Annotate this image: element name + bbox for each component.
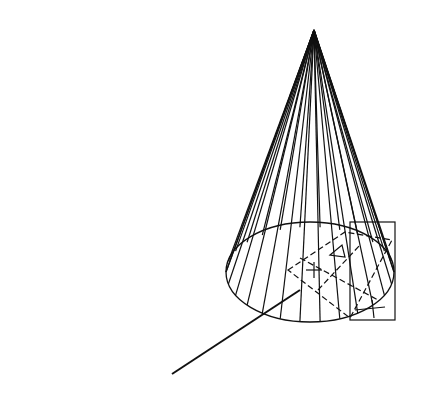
cone-wireframe-diagram	[0, 0, 427, 394]
leader-line	[172, 290, 300, 374]
cone-generator-lines	[226, 30, 394, 322]
